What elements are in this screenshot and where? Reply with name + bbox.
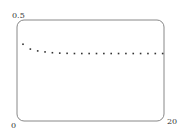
data-point — [147, 53, 149, 55]
origin-label: 0 — [11, 121, 16, 130]
data-point — [59, 52, 61, 54]
data-point — [132, 53, 134, 55]
y-max-label: 0.5 — [12, 11, 25, 20]
data-point — [118, 53, 120, 55]
data-point — [96, 53, 98, 55]
data-points — [22, 43, 163, 54]
chart: 0.5 0 20 — [0, 0, 184, 139]
data-point — [162, 53, 164, 55]
data-point — [52, 52, 54, 54]
data-point — [140, 53, 142, 55]
data-point — [37, 50, 39, 52]
data-point — [44, 51, 46, 53]
data-point — [110, 53, 112, 55]
data-point — [81, 53, 83, 55]
data-point — [155, 53, 157, 55]
data-point — [30, 48, 32, 50]
plot-frame — [17, 20, 164, 121]
data-point — [22, 43, 24, 45]
data-point — [125, 53, 127, 55]
data-point — [74, 53, 76, 55]
data-point — [66, 53, 68, 55]
data-point — [88, 53, 90, 55]
data-point — [103, 53, 105, 55]
x-max-label: 20 — [167, 117, 177, 126]
